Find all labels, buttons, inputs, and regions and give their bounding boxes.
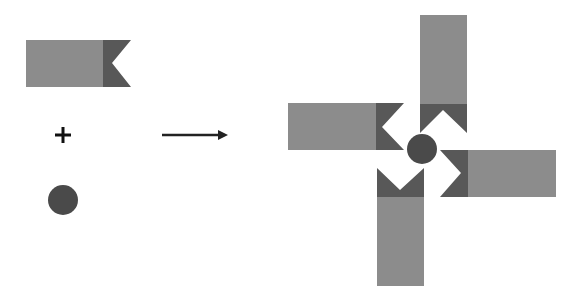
flag-body (26, 40, 104, 87)
pinwheel-center-circle (407, 134, 437, 164)
source-flag (26, 40, 131, 87)
source-circle (48, 185, 78, 215)
pinwheel-flag-bottom (377, 168, 424, 286)
pinwheel-result (288, 15, 556, 286)
plus-icon (55, 127, 71, 143)
pinwheel-flag-top (420, 15, 467, 133)
pinwheel-flag-left (288, 103, 404, 150)
pinwheel-flag-right (440, 150, 556, 197)
flag-notch (103, 40, 131, 87)
pinwheel-diagram (0, 0, 583, 298)
arrow-right-icon (162, 130, 228, 140)
